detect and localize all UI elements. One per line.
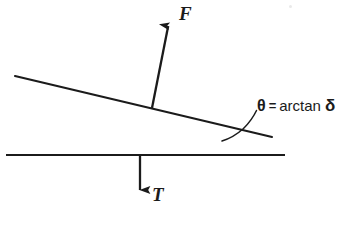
physics-force-diagram: F T θ = arctan δ — [0, 0, 347, 228]
force-vector-label: F — [179, 4, 192, 23]
force-vector-arrow — [152, 26, 168, 108]
tension-vector-label: T — [152, 185, 164, 204]
scan-artifact-speck — [289, 5, 292, 8]
arctan-function-name: arctan — [279, 98, 321, 113]
diagram-canvas — [0, 0, 347, 228]
equals-symbol: = — [269, 99, 277, 112]
inclined-surface-line — [15, 76, 272, 137]
theta-symbol: θ — [257, 98, 266, 114]
delta-symbol: δ — [325, 97, 335, 114]
angle-equation-annotation: θ = arctan δ — [257, 97, 335, 114]
